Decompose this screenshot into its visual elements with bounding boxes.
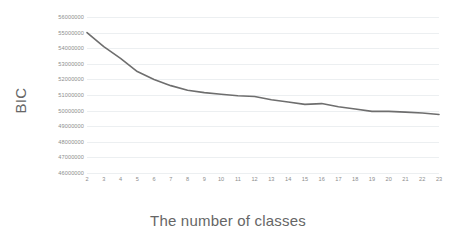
y-tick-label: 46000000 — [30, 170, 84, 176]
x-tick-label: 6 — [152, 176, 155, 182]
x-tick-label: 8 — [186, 176, 189, 182]
y-tick-label: 51000000 — [30, 92, 84, 98]
y-tick-label: 54000000 — [30, 45, 84, 51]
bic-series-line — [87, 17, 439, 173]
x-tick-label: 5 — [136, 176, 139, 182]
y-axis-title-label: BIC — [13, 87, 30, 113]
bic-line-chart: BIC 560000005500000054000000530000005200… — [0, 0, 456, 245]
x-tick-label: 9 — [203, 176, 206, 182]
bic-series-polyline — [87, 33, 439, 115]
x-tick-label: 13 — [268, 176, 274, 182]
y-tick-label: 49000000 — [30, 123, 84, 129]
y-tick-label: 55000000 — [30, 30, 84, 36]
x-tick-label: 4 — [119, 176, 122, 182]
x-tick-label: 10 — [218, 176, 224, 182]
x-tick-label: 16 — [319, 176, 325, 182]
plot-area — [87, 17, 439, 173]
x-tick-label: 3 — [102, 176, 105, 182]
x-tick-label: 11 — [235, 176, 241, 182]
x-axis-title: The number of classes — [0, 212, 456, 229]
y-tick-label: 52000000 — [30, 76, 84, 82]
y-axis-tick-labels: 5600000055000000540000005300000052000000… — [30, 17, 84, 173]
x-tick-label: 14 — [285, 176, 291, 182]
x-tick-label: 2 — [85, 176, 88, 182]
y-tick-label: 56000000 — [30, 14, 84, 20]
x-tick-label: 23 — [436, 176, 442, 182]
x-tick-label: 19 — [369, 176, 375, 182]
y-tick-label: 53000000 — [30, 61, 84, 67]
gridline — [87, 173, 439, 174]
x-axis-tick-labels: 234567891011121314151617181920212223 — [87, 176, 439, 190]
x-tick-label: 22 — [419, 176, 425, 182]
x-tick-label: 18 — [352, 176, 358, 182]
x-tick-label: 21 — [402, 176, 408, 182]
y-tick-label: 47000000 — [30, 154, 84, 160]
y-tick-label: 48000000 — [30, 139, 84, 145]
x-tick-label: 20 — [386, 176, 392, 182]
x-tick-label: 12 — [251, 176, 257, 182]
x-tick-label: 15 — [302, 176, 308, 182]
y-tick-label: 50000000 — [30, 108, 84, 114]
x-tick-label: 7 — [169, 176, 172, 182]
x-tick-label: 17 — [335, 176, 341, 182]
